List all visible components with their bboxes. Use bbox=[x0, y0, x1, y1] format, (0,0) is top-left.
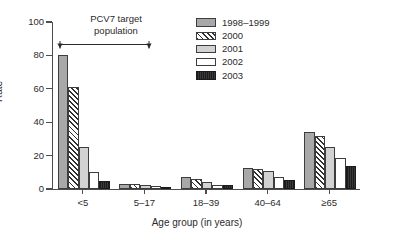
legend-swatch-icon bbox=[196, 18, 216, 27]
x-tick-label-4: 40–64 bbox=[238, 197, 298, 208]
legend-label: 2003 bbox=[222, 71, 243, 81]
bar-65-2000 bbox=[315, 136, 325, 189]
y-tick-label: 40 bbox=[4, 117, 44, 127]
legend-label: 1998–1999 bbox=[222, 18, 270, 28]
pcv7-annotation-line2: population bbox=[57, 25, 175, 37]
legend-swatch-icon bbox=[196, 58, 216, 67]
x-tick-mark bbox=[329, 189, 330, 194]
bar-65-2003 bbox=[346, 166, 356, 189]
bar-4064-2002 bbox=[274, 177, 284, 189]
legend-swatch-icon bbox=[196, 45, 216, 54]
legend-item-19981999[interactable]: 1998–1999 bbox=[196, 16, 270, 29]
y-tick-label: 80 bbox=[4, 50, 44, 60]
bar-517-2001 bbox=[140, 185, 150, 189]
legend-item-2003[interactable]: 2003 bbox=[196, 69, 270, 82]
legend: 1998–19992000200120022003 bbox=[196, 16, 270, 82]
x-tick-mark bbox=[267, 189, 268, 194]
legend-item-2001[interactable]: 2001 bbox=[196, 42, 270, 55]
bar-5-2001 bbox=[79, 147, 89, 189]
legend-label: 2001 bbox=[222, 44, 243, 54]
legend-label: 2002 bbox=[222, 57, 243, 67]
x-tick-mark bbox=[144, 189, 145, 194]
pcv7-annotation-text: PCV7 target population bbox=[57, 13, 175, 36]
bar-5-2003 bbox=[99, 181, 109, 189]
x-axis-title: Age group (in years) bbox=[0, 217, 394, 228]
bar-517-2003 bbox=[161, 187, 171, 189]
bar-4064-2001 bbox=[263, 171, 273, 189]
x-tick-mark bbox=[82, 189, 83, 194]
legend-swatch-icon bbox=[196, 32, 216, 41]
bar-chart-figure: Rate 020406080100 <55–1718–3940–64≥65 Ag… bbox=[0, 0, 394, 243]
y-tick-label: 100 bbox=[4, 17, 44, 27]
legend-swatch-icon bbox=[196, 71, 216, 80]
bar-65-2001 bbox=[325, 147, 335, 189]
pcv7-bracket-arrow-icon bbox=[56, 40, 153, 49]
bar-4064-2003 bbox=[284, 180, 294, 189]
y-tick-label: 0 bbox=[4, 184, 44, 194]
bar-1839-2002 bbox=[212, 185, 222, 190]
legend-label: 2000 bbox=[222, 31, 243, 41]
bar-65-2002 bbox=[335, 158, 345, 189]
bar-4064-2000 bbox=[253, 169, 263, 189]
bar-517-2002 bbox=[151, 186, 161, 189]
bar-517-2000 bbox=[130, 184, 140, 189]
legend-item-2000[interactable]: 2000 bbox=[196, 29, 270, 42]
legend-item-2002[interactable]: 2002 bbox=[196, 56, 270, 69]
pcv7-annotation-line1: PCV7 target bbox=[57, 13, 175, 25]
x-tick-mark bbox=[205, 189, 206, 194]
bar-517-19981999 bbox=[119, 184, 129, 189]
y-tick-label: 20 bbox=[4, 151, 44, 161]
bar-1839-2003 bbox=[223, 185, 233, 189]
bar-4064-19981999 bbox=[243, 168, 253, 189]
bar-5-2000 bbox=[68, 87, 78, 189]
bar-5-2002 bbox=[89, 172, 99, 189]
bar-1839-19981999 bbox=[181, 177, 191, 189]
y-tick-label: 60 bbox=[4, 84, 44, 94]
bar-1839-2000 bbox=[191, 179, 201, 189]
bar-5-19981999 bbox=[58, 55, 68, 189]
x-tick-label-5: ≥65 bbox=[299, 197, 359, 208]
x-tick-label-1: <5 bbox=[53, 197, 113, 208]
x-tick-label-3: 18–39 bbox=[176, 197, 236, 208]
bar-65-19981999 bbox=[304, 132, 314, 189]
x-tick-label-2: 5–17 bbox=[114, 197, 174, 208]
bar-1839-2001 bbox=[202, 182, 212, 189]
